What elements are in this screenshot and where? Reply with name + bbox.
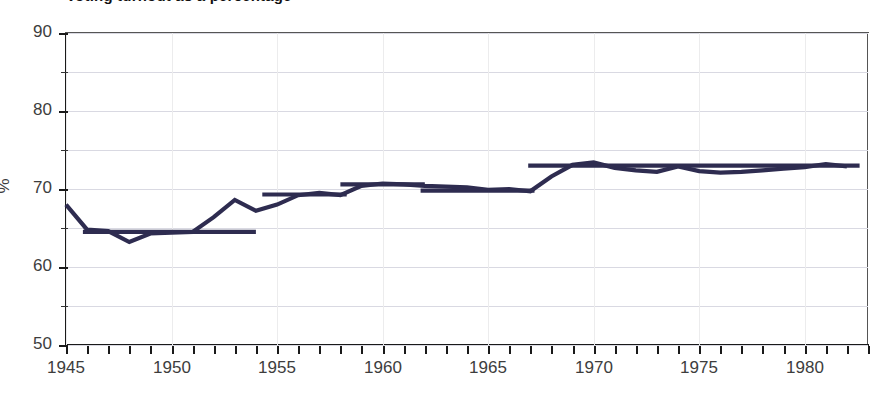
- x-tick-1966: [509, 346, 511, 354]
- x-tick-label-1955: 1955: [258, 358, 296, 378]
- x-tick-1977: [741, 346, 743, 354]
- x-tick-1969: [573, 346, 575, 354]
- gridline-y-75: [66, 150, 868, 151]
- y-tick-label-80: 80: [0, 100, 52, 120]
- series-layer: [0, 0, 875, 394]
- x-tick-1959: [361, 346, 363, 354]
- x-tick-1976: [720, 346, 722, 354]
- x-tick-1980: [805, 346, 807, 354]
- x-tick-label-1975: 1975: [680, 358, 718, 378]
- gridline-y-55: [66, 306, 868, 307]
- x-tick-1947: [108, 346, 110, 354]
- x-tick-label-1970: 1970: [575, 358, 613, 378]
- x-tick-1974: [678, 346, 680, 354]
- x-tick-1955: [277, 346, 279, 354]
- x-tick-1983: [868, 346, 870, 354]
- x-tick-label-1965: 1965: [469, 358, 507, 378]
- x-tick-1960: [383, 346, 385, 354]
- x-tick-1978: [762, 346, 764, 354]
- gridline-y-90: [66, 33, 868, 34]
- y-tick-minor-75: [61, 150, 68, 151]
- gridline-y-80: [66, 111, 868, 112]
- x-tick-1975: [699, 346, 701, 354]
- x-tick-1946: [87, 346, 89, 354]
- x-tick-label-1960: 1960: [364, 358, 402, 378]
- x-tick-1950: [172, 346, 174, 354]
- gridline-y-60: [66, 267, 868, 268]
- x-tick-1970: [594, 346, 596, 354]
- y-tick-90: [59, 33, 68, 35]
- gridline-y-70: [66, 189, 868, 190]
- gridline-y-65: [66, 228, 868, 229]
- x-tick-1953: [235, 346, 237, 354]
- x-tick-1961: [404, 346, 406, 354]
- x-tick-1962: [425, 346, 427, 354]
- y-tick-label-90: 90: [0, 22, 52, 42]
- x-tick-1954: [256, 346, 258, 354]
- x-tick-1968: [551, 346, 553, 354]
- y-tick-60: [59, 267, 68, 269]
- y-tick-minor-55: [61, 306, 68, 307]
- gridline-x-1970: [594, 33, 595, 345]
- y-tick-minor-65: [61, 228, 68, 229]
- x-tick-1963: [446, 346, 448, 354]
- x-tick-1965: [488, 346, 490, 354]
- x-tick-1979: [784, 346, 786, 354]
- x-tick-1952: [214, 346, 216, 354]
- y-tick-70: [59, 189, 68, 191]
- x-tick-label-1950: 1950: [153, 358, 191, 378]
- y-tick-label-60: 60: [0, 256, 52, 276]
- x-tick-1981: [826, 346, 828, 354]
- x-tick-1958: [340, 346, 342, 354]
- gridline-x-1960: [383, 33, 384, 345]
- x-tick-label-1980: 1980: [786, 358, 824, 378]
- x-tick-label-1945: 1945: [47, 358, 85, 378]
- gridline-x-1965: [488, 33, 489, 345]
- y-tick-minor-85: [61, 72, 68, 73]
- x-tick-1956: [298, 346, 300, 354]
- chart-title-clip: Voting turnout as a percentage: [0, 0, 875, 7]
- gridline-x-1975: [699, 33, 700, 345]
- y-tick-label-50: 50: [0, 334, 52, 354]
- x-tick-1967: [530, 346, 532, 354]
- x-tick-1951: [193, 346, 195, 354]
- x-tick-1982: [847, 346, 849, 354]
- x-tick-1964: [467, 346, 469, 354]
- x-tick-1973: [657, 346, 659, 354]
- x-tick-1949: [150, 346, 152, 354]
- x-tick-1972: [636, 346, 638, 354]
- gridline-x-1955: [277, 33, 278, 345]
- y-axis-unit-label: %: [0, 178, 14, 193]
- gridline-x-1950: [172, 33, 173, 345]
- gridline-x-1980: [805, 33, 806, 345]
- x-tick-1948: [129, 346, 131, 354]
- chart-root: Voting turnout as a percentage 908070605…: [0, 0, 875, 394]
- x-tick-1971: [615, 346, 617, 354]
- gridline-y-85: [66, 72, 868, 73]
- x-tick-1945: [66, 346, 68, 354]
- x-tick-1957: [319, 346, 321, 354]
- y-tick-80: [59, 111, 68, 113]
- chart-title: Voting turnout as a percentage: [66, 0, 292, 4]
- series-line-0: [66, 163, 847, 243]
